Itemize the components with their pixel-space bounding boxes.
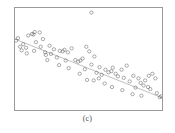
data-point	[151, 72, 154, 75]
data-point	[16, 36, 19, 39]
data-point	[81, 57, 84, 60]
data-point	[146, 85, 149, 88]
data-point	[103, 82, 106, 85]
data-point	[110, 70, 113, 73]
figure-panel: (c)	[0, 0, 175, 133]
data-point	[27, 34, 30, 37]
data-point	[143, 79, 146, 82]
data-point	[24, 46, 27, 49]
panel-caption: (c)	[0, 114, 175, 123]
data-point	[39, 45, 42, 48]
data-point	[90, 63, 93, 66]
data-point	[121, 88, 124, 91]
data-point	[70, 47, 73, 50]
data-point	[98, 66, 101, 69]
data-point	[110, 85, 113, 88]
data-point	[155, 92, 158, 95]
data-point	[139, 81, 142, 84]
data-point	[77, 60, 80, 63]
data-point	[18, 45, 21, 48]
data-point	[38, 31, 41, 34]
data-point	[132, 74, 135, 77]
data-point	[97, 77, 100, 80]
data-point	[46, 58, 49, 61]
data-point	[93, 55, 96, 58]
data-point	[67, 67, 70, 70]
data-point	[137, 77, 140, 80]
outlier-point	[90, 11, 93, 14]
data-point	[34, 41, 37, 44]
data-point	[92, 79, 95, 82]
data-point	[122, 76, 125, 79]
data-point	[83, 68, 86, 71]
data-point	[128, 80, 131, 83]
data-point	[78, 72, 81, 75]
data-point	[85, 78, 88, 81]
data-point	[154, 77, 157, 80]
data-point	[85, 45, 88, 48]
data-point	[125, 64, 128, 67]
scatter-plot-canvas	[15, 8, 162, 110]
data-point	[48, 44, 51, 47]
data-point	[32, 49, 35, 52]
scatter-plot-frame	[14, 7, 163, 111]
trendline-segment	[15, 39, 162, 98]
data-point	[116, 75, 119, 78]
data-point	[22, 43, 25, 46]
data-point	[52, 48, 55, 51]
data-point	[88, 50, 91, 53]
data-point	[55, 56, 58, 59]
data-point	[142, 84, 145, 87]
data-point	[66, 51, 69, 54]
data-point	[149, 87, 152, 90]
outlier-point-group	[90, 11, 93, 14]
data-point	[120, 68, 123, 71]
data-point	[20, 49, 23, 52]
data-point	[147, 74, 150, 77]
data-points-group	[15, 30, 162, 99]
data-point	[57, 63, 60, 66]
data-point	[79, 59, 82, 62]
data-point	[25, 52, 28, 55]
data-point	[104, 68, 107, 71]
data-point	[140, 94, 143, 97]
data-point	[131, 93, 134, 96]
data-point	[41, 37, 44, 40]
trendline	[15, 39, 162, 98]
data-point	[111, 66, 114, 69]
